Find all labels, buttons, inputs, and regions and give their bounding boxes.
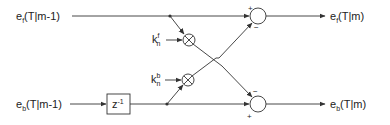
backward-input-label: eb(T|m-1) xyxy=(16,98,62,112)
kf-coefficient-label: kfn xyxy=(152,32,160,47)
top-minus-sign: − xyxy=(254,23,259,32)
bottom-minus-sign: − xyxy=(253,87,258,96)
forward-cross-wire xyxy=(193,44,252,97)
backward-cross-wire xyxy=(192,23,252,76)
backward-summing-junction xyxy=(250,96,266,112)
backward-to-multiplier-wire xyxy=(167,85,183,104)
bottom-plus-sign: + xyxy=(247,112,252,121)
forward-output-label: ef(T|m) xyxy=(330,10,364,24)
forward-to-multiplier-wire xyxy=(170,16,184,34)
forward-input-label: ef(T|m-1) xyxy=(16,10,60,24)
top-plus-sign: + xyxy=(248,4,253,13)
backward-output-label: eb(T|m) xyxy=(330,98,366,112)
kb-coefficient-label: kbn xyxy=(151,72,161,87)
lattice-diagram: + − − + ef(T|m-1) eb(T|m-1) ef(T|m) eb(T… xyxy=(0,0,390,125)
